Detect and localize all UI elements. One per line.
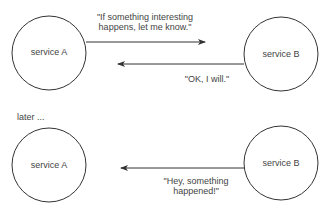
later-separator: later ...: [17, 112, 45, 122]
reply-message: "OK, I will.": [185, 74, 229, 84]
service-a-label-top: service A: [31, 47, 68, 57]
request-message-line2: happens, let me know.": [99, 22, 192, 32]
notify-message-line2: happened!": [173, 186, 219, 196]
service-b-label-bottom: service B: [262, 158, 299, 168]
service-b-label-top: service B: [262, 49, 299, 59]
notify-message-line1: "Hey, something: [163, 176, 228, 186]
service-a-label-bottom: service A: [31, 160, 68, 170]
request-message-line1: "If something interesting: [97, 12, 193, 22]
